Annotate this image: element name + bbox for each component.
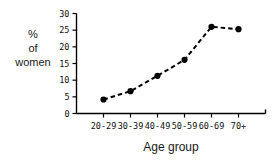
data-point-marker	[235, 26, 241, 32]
y-axis-tick-label: 30	[59, 9, 69, 19]
data-point-marker	[127, 88, 133, 94]
data-point-marker	[154, 73, 160, 79]
series-line	[104, 27, 239, 100]
x-axis-tick-label: 60-69	[199, 121, 225, 131]
y-axis-tick-label: 10	[59, 75, 69, 85]
y-axis-tick-label: 0	[64, 109, 69, 119]
data-point-marker	[181, 57, 187, 63]
x-axis-title: Age group	[76, 140, 266, 154]
x-axis-tick-label: 70+	[231, 121, 246, 131]
y-axis-tick-label: 20	[59, 42, 69, 52]
x-axis-tick-label: 30-39	[118, 121, 144, 131]
data-point-marker	[208, 24, 214, 30]
chart-plot-area: 05101520253020-2930-3940-4950-5960-6970+	[0, 0, 278, 161]
x-axis-tick-label: 40-49	[145, 121, 171, 131]
x-axis-tick-label: 50-59	[172, 121, 198, 131]
x-axis-tick-label: 20-29	[91, 121, 117, 131]
y-axis-tick-label: 5	[64, 92, 69, 102]
data-point-marker	[100, 96, 106, 102]
chart-container: % of women 05101520253020-2930-3940-4950…	[0, 0, 278, 161]
y-axis-tick-label: 25	[59, 25, 69, 35]
y-axis-tick-label: 15	[59, 59, 69, 69]
